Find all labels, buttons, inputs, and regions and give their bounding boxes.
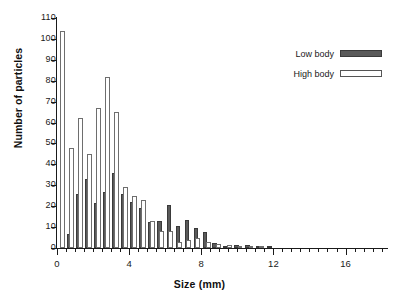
bar-high-body-8 [96,108,101,248]
y-axis-line [56,17,57,249]
x-tick-10.5 [246,249,247,252]
y-tick-label-10: 10 [30,221,56,231]
x-tick-18 [382,249,383,252]
x-tick-label-0: 0 [42,258,72,269]
legend-swatch-high-body [340,70,382,77]
y-tick-label-0: 0 [30,242,56,252]
bar-high-body-16 [132,196,137,248]
x-tick-3 [111,249,112,252]
bar-high-body-14 [123,187,128,248]
x-tick-1 [75,249,76,252]
x-tick-16 [346,249,347,255]
y-tick-label-40: 40 [30,158,56,168]
bar-high-body-6 [87,154,92,248]
x-tick-6 [165,249,166,252]
chart-legend: Low body High body [262,46,382,86]
x-tick-14.5 [318,249,319,252]
bar-high-body-4 [78,118,83,248]
x-tick-0 [57,249,58,255]
legend-label-high-body: High body [293,69,334,79]
x-tick-2 [93,249,94,252]
x-tick-9.5 [228,249,229,252]
bar-high-body-2 [69,148,74,248]
bar-high-body-10 [105,77,110,248]
x-tick-label-16: 16 [331,258,361,269]
legend-item-high-body: High body [262,66,382,81]
x-tick-5.5 [156,249,157,252]
x-tick-13.5 [300,249,301,252]
x-tick-17.5 [373,249,374,252]
y-tick-label-90: 90 [30,54,56,64]
x-tick-label-4: 4 [114,258,144,269]
x-tick-0.5 [66,249,67,252]
legend-item-low-body: Low body [262,46,382,61]
x-tick-7.5 [192,249,193,252]
bar-high-body-28 [186,240,191,248]
y-tick-label-20: 20 [30,200,56,210]
chart-figure: 0102030405060708090100110 0481216 Number… [0,0,399,305]
bar-high-body-12 [114,112,119,248]
x-tick-12.5 [282,249,283,252]
x-tick-4.5 [138,249,139,252]
x-axis-title: Size (mm) [0,278,399,290]
x-tick-12 [273,249,274,255]
x-tick-13 [291,249,292,252]
y-tick-label-70: 70 [30,96,56,106]
x-tick-15 [327,249,328,252]
legend-label-low-body: Low body [295,49,334,59]
y-tick-label-60: 60 [30,117,56,127]
y-tick-label-50: 50 [30,137,56,147]
x-tick-5 [147,249,148,252]
x-tick-label-12: 12 [258,258,288,269]
x-tick-8.5 [210,249,211,252]
y-axis-title: Number of particles [12,28,24,168]
x-tick-11.5 [264,249,265,252]
x-tick-16.5 [355,249,356,252]
y-tick-label-80: 80 [30,75,56,85]
bar-high-body-20 [150,221,155,248]
x-tick-15.5 [337,249,338,252]
y-tick-label-110: 110 [30,12,56,22]
x-tick-9 [219,249,220,252]
x-tick-14 [309,249,310,252]
x-tick-2.5 [102,249,103,252]
x-tick-11 [255,249,256,252]
x-tick-3.5 [120,249,121,252]
x-tick-1.5 [84,249,85,252]
x-tick-4 [129,249,130,255]
x-axis-line [56,248,388,249]
x-tick-7 [183,249,184,252]
x-tick-8 [201,249,202,255]
y-tick-label-100: 100 [30,33,56,43]
bar-high-body-30 [195,238,200,248]
bar-high-body-22 [159,231,164,248]
legend-swatch-low-body [340,50,382,57]
bar-high-body-0 [60,31,65,248]
x-tick-label-8: 8 [186,258,216,269]
bar-high-body-24 [168,231,173,248]
x-tick-10 [237,249,238,252]
y-tick-label-30: 30 [30,179,56,189]
x-tick-17 [364,249,365,252]
x-tick-6.5 [174,249,175,252]
bar-high-body-18 [141,200,146,248]
